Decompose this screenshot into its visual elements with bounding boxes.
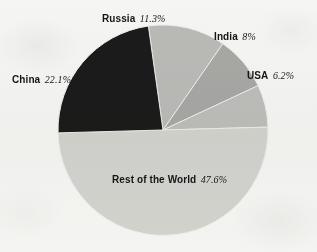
pie-chart-figure: Russia 11.3% India 8% USA 6.2% China 22.… [0,0,317,252]
pie-label-india-name: India [214,31,238,42]
pie-slice-group [0,0,317,252]
chart-plot-area [0,0,317,252]
pie-label-usa-value: 6.2% [273,70,294,81]
pie-label-india-value: 8% [242,31,256,42]
pie-label-rest-of-the-world-value: 47.6% [201,174,227,185]
pie-label-rest-of-the-world: Rest of the World 47.6% [112,170,227,186]
pie-label-rest-of-the-world-name: Rest of the World [112,174,196,185]
pie-label-usa-name: USA [247,70,268,81]
pie-label-usa: USA 6.2% [247,66,294,82]
pie-label-russia: Russia 11.3% [102,9,165,25]
pie-label-india: India 8% [214,27,256,43]
pie-svg [0,0,317,252]
pie-label-russia-name: Russia [102,13,135,24]
pie-label-china: China 22.1% [12,70,71,86]
pie-label-china-name: China [12,74,40,85]
pie-label-china-value: 22.1% [45,74,71,85]
pie-label-russia-value: 11.3% [140,13,166,24]
